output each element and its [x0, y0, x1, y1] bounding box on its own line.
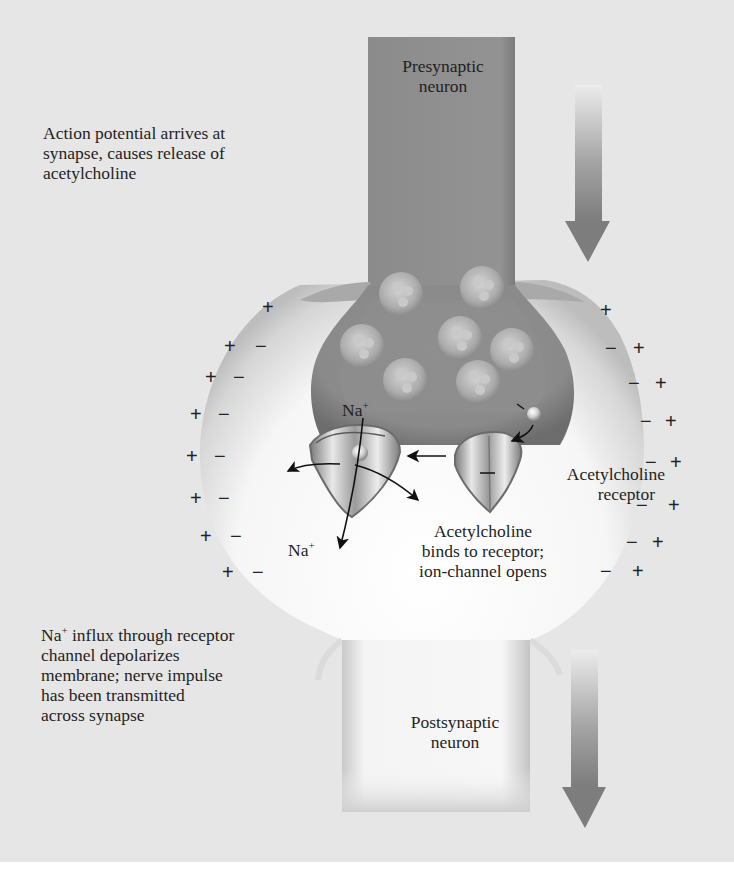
vesicle	[490, 328, 534, 372]
minus-charge: −	[218, 404, 230, 424]
signal-direction-arrow-top	[565, 85, 610, 262]
plus-charge: +	[632, 561, 644, 581]
plus-charge: +	[190, 404, 202, 424]
minus-charge: −	[218, 488, 230, 508]
plus-charge: +	[262, 297, 274, 317]
plus-charge: +	[668, 495, 680, 515]
minus-charge: −	[636, 495, 648, 515]
vesicle	[340, 324, 384, 368]
plus-charge: +	[600, 300, 612, 320]
minus-charge: −	[605, 338, 617, 358]
vesicle	[438, 316, 482, 360]
step2-caption: Acetylcholine binds to receptor; ion-cha…	[408, 521, 558, 581]
minus-charge: −	[600, 561, 612, 581]
step1-caption: Action potential arrives at synapse, cau…	[43, 123, 225, 183]
plus-charge: +	[222, 562, 234, 582]
step3-caption: Na+ influx through receptor channel depo…	[41, 625, 234, 725]
acetylcholine-molecule	[527, 407, 541, 421]
plus-charge: +	[190, 488, 202, 508]
plus-charge: +	[200, 526, 212, 546]
minus-charge: −	[255, 336, 267, 356]
na-ion-label-bottom: Na+	[288, 540, 315, 560]
plus-charge: +	[633, 338, 645, 358]
minus-charge: −	[230, 526, 242, 546]
signal-direction-arrow-bottom	[562, 650, 606, 828]
plus-charge: +	[186, 446, 198, 466]
minus-charge: −	[252, 562, 264, 582]
minus-charge: −	[214, 446, 226, 466]
plus-charge: +	[655, 373, 667, 393]
plus-charge: +	[205, 367, 217, 387]
postsynaptic-neuron-label: Postsynaptic neuron	[395, 712, 515, 752]
minus-charge: −	[626, 532, 638, 552]
synapse-figure: Presynaptic neuron Action potential arri…	[0, 0, 734, 892]
minus-charge: −	[628, 373, 640, 393]
presynaptic-neuron-label: Presynaptic neuron	[388, 56, 498, 96]
vesicle	[379, 272, 423, 316]
presynaptic-neuron	[300, 37, 585, 445]
na-ion-label-top: Na+	[342, 400, 369, 420]
vesicle	[460, 266, 504, 310]
plus-charge: +	[670, 452, 682, 472]
minus-charge: −	[233, 367, 245, 387]
plus-charge: +	[224, 336, 236, 356]
vesicle	[456, 360, 500, 404]
minus-charge: −	[640, 411, 652, 431]
plus-charge: +	[665, 411, 677, 431]
vesicle	[383, 358, 427, 402]
plus-charge: +	[652, 532, 664, 552]
minus-charge: −	[645, 452, 657, 472]
